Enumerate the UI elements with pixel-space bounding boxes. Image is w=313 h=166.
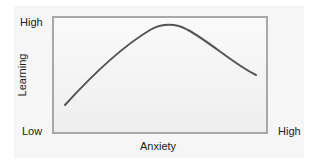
y-axis-high-label: High — [20, 16, 43, 28]
x-axis-title: Anxiety — [140, 140, 176, 152]
y-axis-title: Learning — [16, 54, 28, 97]
y-axis-low-label: Low — [22, 125, 42, 137]
x-axis-high-label: High — [278, 125, 301, 137]
plot-area — [53, 17, 267, 133]
